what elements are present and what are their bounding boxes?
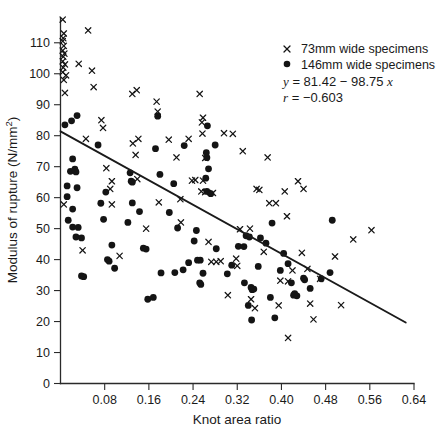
y-tick-label: 20	[36, 315, 50, 329]
y-tick-label: 100	[29, 67, 50, 81]
data-point-146mm	[166, 209, 173, 216]
data-point-146mm	[174, 225, 181, 232]
y-axis-title: Modulus of rupture (N/mm2)	[3, 117, 21, 284]
data-point-146mm	[106, 258, 113, 265]
data-point-146mm	[212, 142, 219, 149]
data-point-146mm	[181, 142, 188, 149]
data-point-146mm	[64, 193, 71, 200]
data-point-146mm	[228, 262, 235, 269]
data-point-146mm	[185, 259, 192, 266]
y-tick-label: 50	[36, 222, 50, 236]
plot-canvas: 0102030405060708090100110 0.080.160.240.…	[0, 0, 447, 433]
y-tick-label: 90	[36, 98, 50, 112]
data-point-146mm	[150, 294, 157, 301]
y-tick-label: 110	[30, 36, 50, 50]
data-point-146mm	[255, 263, 262, 270]
data-point-146mm	[69, 156, 76, 163]
data-point-146mm	[307, 285, 314, 292]
data-point-146mm	[241, 279, 248, 286]
data-point-146mm	[327, 269, 334, 276]
data-point-146mm	[143, 246, 150, 253]
data-point-146mm	[75, 224, 82, 231]
data-point-146mm	[203, 149, 210, 156]
data-point-146mm	[80, 273, 87, 280]
data-point-146mm	[200, 270, 207, 277]
data-point-146mm	[170, 180, 177, 187]
data-point-146mm	[78, 235, 85, 242]
y-tick-label: 10	[36, 346, 50, 360]
data-point-146mm	[197, 257, 204, 264]
data-point-146mm	[205, 165, 212, 172]
data-point-146mm	[64, 182, 71, 189]
data-point-146mm	[102, 189, 109, 196]
data-point-146mm	[329, 217, 336, 224]
data-point-146mm	[158, 270, 165, 277]
data-point-146mm	[95, 142, 102, 149]
data-point-146mm	[248, 317, 255, 324]
regression-equation-text: y = 81.42 − 98.75 x	[281, 74, 393, 89]
x-tick-label: 0.24	[181, 393, 205, 407]
x-tick-label: 0.48	[313, 393, 337, 407]
circle-marker-icon	[284, 61, 291, 68]
data-point-146mm	[111, 265, 118, 272]
legend-label-146mm: 146mm wide specimens	[301, 58, 435, 72]
data-point-146mm	[224, 270, 231, 277]
data-point-146mm	[301, 276, 308, 283]
y-tick-label: 30	[36, 284, 50, 298]
data-point-146mm	[69, 206, 76, 213]
y-tick-label: 60	[36, 191, 50, 205]
data-point-146mm	[100, 216, 107, 223]
data-point-146mm	[74, 184, 81, 191]
correlation-text: r = −0.603	[283, 90, 343, 105]
data-point-146mm	[193, 227, 200, 234]
data-point-146mm	[271, 314, 278, 321]
data-point-146mm	[171, 269, 178, 276]
x-tick-label: 0.16	[137, 393, 161, 407]
data-point-146mm	[240, 243, 247, 250]
data-point-146mm	[65, 217, 72, 224]
data-point-146mm	[129, 179, 136, 186]
data-point-146mm	[191, 238, 198, 245]
legend-label-73mm: 73mm wide specimens	[301, 42, 428, 56]
data-point-146mm	[74, 112, 81, 119]
data-point-146mm	[157, 171, 164, 178]
data-point-146mm	[250, 286, 257, 293]
data-point-146mm	[202, 175, 209, 182]
y-tick-label: 70	[36, 160, 50, 174]
data-point-146mm	[68, 117, 75, 124]
y-tick-label: 80	[36, 129, 50, 143]
data-point-146mm	[277, 267, 284, 274]
data-point-146mm	[97, 200, 104, 207]
data-point-146mm	[129, 200, 136, 207]
data-point-146mm	[108, 242, 115, 249]
x-tick-label: 0.64	[402, 393, 426, 407]
data-point-146mm	[197, 281, 204, 288]
scatter-plot-figure: 0102030405060708090100110 0.080.160.240.…	[0, 0, 447, 433]
data-point-146mm	[269, 220, 276, 227]
data-point-146mm	[124, 219, 131, 226]
data-point-146mm	[73, 169, 80, 176]
x-axis-title: Knot area ratio	[193, 412, 282, 427]
data-point-146mm	[152, 145, 159, 152]
data-point-146mm	[180, 266, 187, 273]
data-point-146mm	[245, 302, 252, 309]
y-tick-label: 0	[43, 377, 50, 391]
data-point-146mm	[207, 190, 214, 197]
y-tick-label: 40	[36, 253, 50, 267]
data-point-146mm	[267, 294, 274, 301]
x-tick-label: 0.56	[358, 393, 382, 407]
data-point-146mm	[204, 122, 211, 129]
data-point-146mm	[154, 113, 161, 120]
data-point-146mm	[294, 292, 301, 299]
data-point-146mm	[136, 208, 143, 215]
data-point-146mm	[213, 245, 220, 252]
data-point-146mm	[285, 260, 292, 267]
legend-item-146mm: 146mm wide specimens	[284, 58, 435, 72]
data-point-146mm	[62, 121, 69, 128]
x-tick-label: 0.32	[225, 393, 249, 407]
x-tick-label: 0.40	[269, 393, 293, 407]
x-tick-label: 0.08	[93, 393, 117, 407]
data-point-146mm	[288, 279, 295, 286]
legend-item-73mm: 73mm wide specimens	[284, 42, 428, 56]
